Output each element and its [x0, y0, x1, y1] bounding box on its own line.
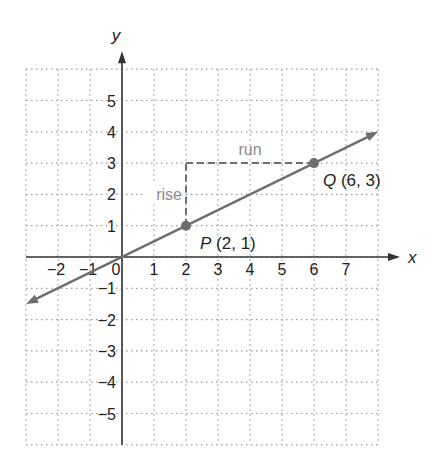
run-label: run: [238, 141, 261, 158]
x-tick-label: 1: [150, 261, 159, 278]
data-line: [26, 132, 378, 304]
y-tick-label: −3: [98, 343, 116, 360]
x-axis-arrow-icon: [388, 253, 400, 261]
x-tick-label: 5: [278, 261, 287, 278]
y-tick-label: −1: [98, 280, 116, 297]
y-tick-label: 1: [107, 218, 116, 235]
x-axis-label: x: [407, 248, 417, 267]
point-P-label: P (2, 1): [200, 234, 256, 253]
point-Q-label: Q (6, 3): [323, 171, 381, 190]
coordinate-plane: xy −2−10123456754321−1−2−3−4−5 riserun P…: [0, 0, 433, 464]
x-tick-label: 7: [342, 261, 351, 278]
y-tick-label: 4: [107, 124, 116, 141]
y-tick-label: 5: [107, 93, 116, 110]
x-tick-label: 6: [310, 261, 319, 278]
point-Q: [309, 158, 319, 168]
x-tick-label: −2: [47, 261, 65, 278]
x-tick-label: 3: [214, 261, 223, 278]
point-P: [181, 221, 191, 231]
y-tick-label: −4: [98, 374, 116, 391]
y-tick-label: 2: [107, 186, 116, 203]
y-axis-arrow-icon: [118, 51, 126, 63]
line-arrow-right-icon: [365, 132, 378, 141]
y-tick-label: 3: [107, 155, 116, 172]
line-arrow-left-icon: [26, 295, 39, 304]
points: P (2, 1)Q (6, 3): [181, 158, 381, 253]
rise-label: rise: [156, 186, 182, 203]
y-tick-label: −2: [98, 312, 116, 329]
y-axis-label: y: [111, 26, 122, 45]
x-tick-label: 2: [182, 261, 191, 278]
line-y-equals-half-x: [34, 136, 370, 300]
x-tick-label: 0: [112, 261, 121, 278]
plot-svg: xy −2−10123456754321−1−2−3−4−5 riserun P…: [0, 0, 433, 464]
y-tick-label: −5: [98, 406, 116, 423]
x-tick-label: 4: [246, 261, 255, 278]
annotations: riserun: [144, 141, 314, 226]
